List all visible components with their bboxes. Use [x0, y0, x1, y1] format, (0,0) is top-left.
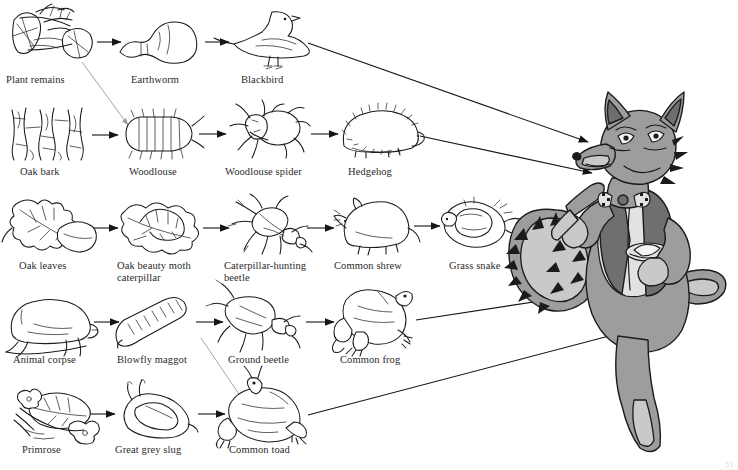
node-label-woodlouse: Woodlouse — [129, 166, 177, 178]
node-label-grass-snake: Grass snake — [449, 260, 501, 272]
node-label-ground-beetle: Ground beetle — [228, 354, 289, 366]
node-label-great-grey-slug: Great grey slug — [115, 444, 181, 456]
node-label-animal-corpse: Animal corpse — [13, 354, 76, 366]
arrow-blackbird-to-fox — [308, 43, 588, 142]
node-label-common-toad: Common toad — [229, 444, 290, 456]
node-label-oak-beauty-moth-caterpillar: Oak beauty moth caterpillar — [117, 260, 191, 283]
arrow-layer — [0, 0, 738, 470]
node-label-common-shrew: Common shrew — [334, 260, 402, 272]
node-label-primrose: Primrose — [22, 444, 61, 456]
node-label-woodlouse-spider: Woodlouse spider — [225, 166, 302, 178]
food-web-diagram: Plant remains Earthworm Blackbird Oak ba… — [0, 0, 738, 470]
node-label-earthworm: Earthworm — [131, 74, 179, 86]
node-label-oak-leaves: Oak leaves — [19, 260, 66, 272]
node-label-common-frog: Common frog — [340, 354, 400, 366]
node-label-hedgehog: Hedgehog — [348, 166, 392, 178]
arrow-plant-remains-to-woodlouse — [82, 62, 128, 125]
arrow-hedgehog-to-fox — [420, 136, 592, 173]
node-label-blackbird: Blackbird — [241, 74, 283, 86]
arrow-ground-beetle-to-common-toad — [201, 338, 243, 400]
node-label-caterpillar-hunting-beetle: Caterpillar-hunting beetle — [224, 260, 306, 283]
arrow-common-frog-to-fox — [416, 294, 586, 320]
node-label-oak-bark: Oak bark — [20, 166, 60, 178]
node-label-plant-remains: Plant remains — [6, 74, 65, 86]
node-label-blowfly-maggot: Blowfly maggot — [117, 354, 187, 366]
arrow-common-toad-to-fox — [308, 330, 632, 415]
page-number-mark: 51 — [725, 461, 734, 468]
